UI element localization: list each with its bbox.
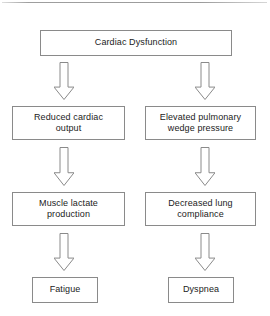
down-arrow-icon [54, 233, 74, 271]
node-fatigue[interactable]: Fatigue [32, 277, 98, 303]
node-elevated-pulmonary-wedge-pressure[interactable]: Elevated pulmonary wedge pressure [145, 106, 256, 140]
node-label: Reduced cardiac output [15, 112, 122, 135]
node-muscle-lactate-production[interactable]: Muscle lactate production [12, 192, 125, 226]
flowchart-canvas: Cardiac Dysfunction Reduced cardiac outp… [0, 0, 270, 316]
node-decreased-lung-compliance[interactable]: Decreased lung compliance [145, 192, 256, 226]
top-divider-rule [2, 2, 267, 3]
node-label: Elevated pulmonary wedge pressure [148, 112, 253, 135]
down-arrow-icon [54, 147, 74, 186]
node-label: Dyspnea [171, 284, 231, 296]
node-label: Cardiac Dysfunction [43, 37, 229, 49]
down-arrow-icon [195, 147, 215, 186]
node-reduced-cardiac-output[interactable]: Reduced cardiac output [12, 106, 125, 140]
node-label: Muscle lactate production [15, 198, 122, 221]
node-cardiac-dysfunction[interactable]: Cardiac Dysfunction [40, 30, 232, 56]
down-arrow-icon [195, 62, 215, 100]
node-label: Decreased lung compliance [148, 198, 253, 221]
node-dyspnea[interactable]: Dyspnea [168, 277, 234, 303]
down-arrow-icon [195, 233, 215, 271]
node-label: Fatigue [35, 284, 95, 296]
down-arrow-icon [54, 62, 74, 100]
